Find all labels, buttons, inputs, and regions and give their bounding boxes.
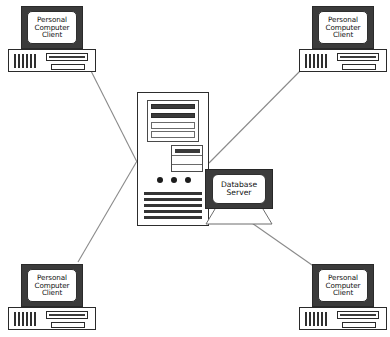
server-bar-2: [151, 113, 195, 118]
indicator-dot-3: [185, 177, 191, 183]
server-sub-line-1: [172, 155, 202, 156]
client-label-line3: Client: [42, 31, 62, 38]
vents-icon: [305, 312, 329, 326]
server-vent-lines: [144, 192, 202, 221]
connection-top-right-to-server: [209, 66, 305, 163]
database-monitor: Database Server: [205, 169, 273, 209]
indicator-dot-1: [157, 177, 163, 183]
drive-bay-icon: [46, 53, 88, 61]
client-monitor: Personal Computer Client: [21, 264, 83, 307]
vents-icon: [14, 54, 38, 68]
client-screen-label: Personal Computer Client: [27, 11, 77, 44]
network-diagram: Personal Computer Client Personal Comput…: [0, 0, 390, 337]
client-bottom-left[interactable]: Personal Computer Client: [8, 264, 96, 330]
client-chassis: [8, 49, 96, 72]
floppy-slot-icon: [51, 322, 85, 328]
client-monitor: Personal Computer Client: [312, 6, 374, 49]
drive-bay-icon: [337, 53, 379, 61]
central-server-tower[interactable]: [137, 92, 209, 226]
vent-line-2: [144, 198, 202, 201]
vent-line-3: [144, 204, 202, 207]
connection-top-left-to-server: [89, 67, 137, 162]
drive-bay-icon: [337, 311, 379, 319]
vents-icon: [14, 312, 38, 326]
server-sub-line-2: [172, 164, 202, 165]
client-chassis: [299, 49, 387, 72]
server-top-panel: [147, 100, 199, 142]
indicator-dot-2: [171, 177, 177, 183]
floppy-slot-icon: [342, 322, 376, 328]
drive-bay-icon: [46, 311, 88, 319]
database-label-line2: Server: [227, 189, 252, 197]
client-label-line3: Client: [333, 289, 353, 296]
server-bar-1: [151, 104, 195, 109]
server-indicator-lights: [157, 177, 193, 184]
database-server[interactable]: Database Server: [205, 169, 273, 225]
server-row-1: [151, 122, 195, 129]
vent-line-5: [144, 216, 202, 219]
vent-line-1: [144, 192, 202, 195]
server-sub-bar: [175, 149, 200, 153]
floppy-slot-icon: [51, 64, 85, 70]
client-screen-label: Personal Computer Client: [27, 269, 77, 302]
database-screen-label: Database Server: [212, 174, 266, 204]
server-row-2: [151, 131, 195, 138]
database-monitor-stand: [205, 209, 273, 225]
server-sub-panel: [171, 145, 203, 172]
vent-line-4: [144, 210, 202, 213]
client-screen-label: Personal Computer Client: [318, 11, 368, 44]
client-bottom-right[interactable]: Personal Computer Client: [299, 264, 387, 330]
vents-icon: [305, 54, 329, 68]
client-screen-label: Personal Computer Client: [318, 269, 368, 302]
client-top-right[interactable]: Personal Computer Client: [299, 6, 387, 72]
client-label-line3: Client: [42, 289, 62, 296]
floppy-slot-icon: [342, 64, 376, 70]
client-chassis: [8, 307, 96, 330]
client-chassis: [299, 307, 387, 330]
connection-bottom-left-to-server: [78, 161, 137, 262]
client-monitor: Personal Computer Client: [312, 264, 374, 307]
client-monitor: Personal Computer Client: [21, 6, 83, 49]
client-top-left[interactable]: Personal Computer Client: [8, 6, 96, 72]
client-label-line3: Client: [333, 31, 353, 38]
